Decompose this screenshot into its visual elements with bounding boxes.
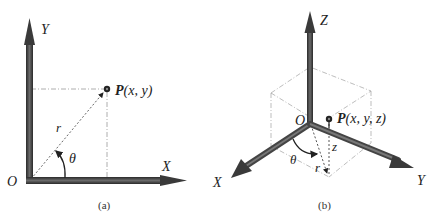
point-p-label-3d: P(x, y, z) xyxy=(337,111,386,127)
theta-arc xyxy=(56,151,65,178)
radius-label: r xyxy=(56,120,62,135)
radius-line xyxy=(31,93,103,179)
y-axis-label: Y xyxy=(41,22,51,37)
theta-label-3d: θ xyxy=(290,152,297,167)
z-axis-label-3d: Z xyxy=(320,13,328,28)
caption-a: (a) xyxy=(98,199,111,212)
origin-label-3d: O xyxy=(295,113,305,128)
y-axis-arrow-3d xyxy=(310,124,414,168)
caption-b: (b) xyxy=(318,199,331,212)
x-axis-label: X xyxy=(161,159,171,174)
theta-arc-3d xyxy=(293,139,317,154)
radius-label-3d: r xyxy=(315,160,321,175)
origin-label: O xyxy=(7,174,17,189)
panel-a: Y X O r θ P(x, y) (a) xyxy=(7,18,187,212)
panel-b: Z X Y O θ r z P(x, y, z) (b) xyxy=(212,11,427,212)
point-p-label: P(x, y) xyxy=(115,83,153,99)
x-axis-label-3d: X xyxy=(212,175,222,190)
height-label-3d: z xyxy=(331,139,337,154)
diagram-canvas: Y X O r θ P(x, y) (a) xyxy=(0,0,436,219)
theta-label: θ xyxy=(69,151,76,166)
x-axis-arrow xyxy=(26,175,187,186)
x-axis-arrow-3d xyxy=(231,124,310,178)
y-axis-arrow xyxy=(24,18,35,182)
y-axis-label-3d: Y xyxy=(417,173,427,188)
